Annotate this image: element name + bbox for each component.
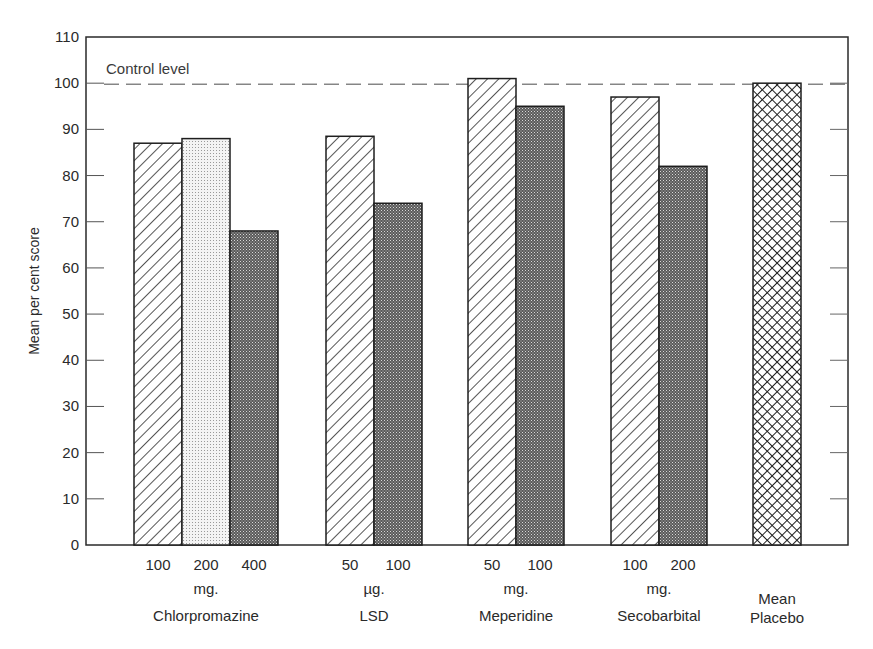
category-labels: 100200400mg.Chlorpromazine50100µg.LSD501…: [145, 556, 804, 626]
unit-label: mg.: [646, 580, 671, 597]
group-label: Meperidine: [479, 607, 553, 624]
bar-chlorpromazine-100: [134, 143, 182, 545]
dose-label: 200: [670, 556, 695, 573]
y-tick-label: 0: [71, 536, 79, 553]
group-label: Chlorpromazine: [153, 607, 259, 624]
dose-label: 50: [484, 556, 501, 573]
y-tick-label: 30: [62, 397, 79, 414]
control-level-label: Control level: [106, 60, 189, 77]
dose-label: 200: [193, 556, 218, 573]
bar-lsd-100: [374, 203, 422, 545]
bar-chlorpromazine-400: [230, 231, 278, 545]
unit-label: mg.: [193, 580, 218, 597]
group-label: Mean: [758, 590, 796, 607]
y-tick-label: 110: [55, 28, 79, 45]
bar-chart: 0102030405060708090100110 Mean per cent …: [0, 0, 873, 649]
bar-chlorpromazine-200: [182, 139, 230, 545]
group-label: Secobarbital: [617, 607, 700, 624]
dose-label: 100: [622, 556, 647, 573]
unit-label: mg.: [503, 580, 528, 597]
y-tick-label: 70: [62, 213, 79, 230]
bars: [134, 79, 801, 545]
dose-label: 100: [527, 556, 552, 573]
bar-meperidine-100: [516, 106, 564, 545]
y-tick-label: 100: [54, 74, 79, 91]
y-tick-label: 80: [62, 167, 79, 184]
y-tick-label: 60: [62, 259, 79, 276]
dose-label: 100: [145, 556, 170, 573]
y-axis: 0102030405060708090100110: [54, 28, 104, 553]
bar-secobarbital-200: [659, 166, 707, 545]
dose-label: 50: [342, 556, 359, 573]
unit-label: µg.: [363, 580, 384, 597]
bar-mean-placebo: [753, 83, 801, 545]
bar-lsd-50: [326, 136, 374, 545]
y-tick-label: 90: [62, 120, 79, 137]
group-label: Placebo: [750, 609, 804, 626]
y-axis-title: Mean per cent score: [26, 227, 42, 355]
group-label: LSD: [359, 607, 388, 624]
y-tick-label: 20: [62, 444, 79, 461]
y-tick-label: 40: [62, 351, 79, 368]
bar-meperidine-50: [468, 79, 516, 545]
y-tick-label: 10: [62, 490, 79, 507]
right-axis-ticks: [830, 83, 848, 499]
y-tick-label: 50: [62, 305, 79, 322]
dose-label: 400: [241, 556, 266, 573]
bar-secobarbital-100: [611, 97, 659, 545]
dose-label: 100: [385, 556, 410, 573]
